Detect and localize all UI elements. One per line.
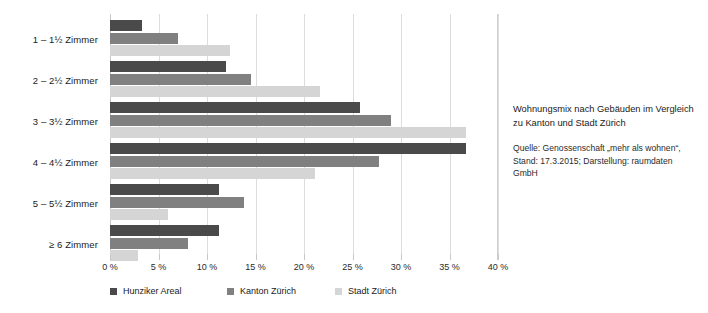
plot-area [110,14,498,260]
category-label: ≥ 6 Zimmer [0,225,98,263]
bar [110,74,251,85]
x-axis-ticks: 0 %5 %10 %15 %20 %25 %30 %35 %40 % [110,262,498,276]
category-label: 4 – 4½ Zimmer [0,143,98,181]
category-label: 5 – 5½ Zimmer [0,184,98,222]
x-tick-label: 5 % [151,262,167,272]
chart-title: Wohnungsmix nach Gebäuden im Vergleich z… [513,103,695,130]
tick-mark [256,254,257,260]
x-tick-label: 0 % [102,262,118,272]
x-tick-label: 15 % [245,262,266,272]
bar [110,86,320,97]
bar [110,184,219,195]
bar [110,45,230,56]
legend-swatch [227,288,234,295]
gridline-40 [498,14,499,260]
bar [110,197,244,208]
x-tick-label: 25 % [342,262,363,272]
legend-label: Kanton Zürich [240,286,296,296]
chart-source: Quelle: Genossenschaft „mehr als wohnen“… [513,142,695,180]
category-label-text: 2 – 2½ Zimmer [33,75,98,86]
category-label-text: 1 – 1½ Zimmer [33,34,98,45]
category-label-text: 5 – 5½ Zimmer [33,198,98,209]
bar [110,115,391,126]
category-label-text: ≥ 6 Zimmer [49,239,98,250]
chart-figure: 1 – 1½ Zimmer2 – 2½ Zimmer3 – 3½ Zimmer4… [0,0,708,313]
bar [110,143,466,154]
category-label-text: 4 – 4½ Zimmer [33,157,98,168]
legend-swatch [335,288,342,295]
tick-mark [498,254,499,260]
legend-item: Hunziker Areal [110,286,182,296]
bar [110,127,466,138]
tick-mark [110,254,111,260]
legend-item: Stadt Zürich [335,286,397,296]
legend-label: Stadt Zürich [348,286,397,296]
bar-group [110,61,498,99]
bar [110,102,360,113]
category-axis: 1 – 1½ Zimmer2 – 2½ Zimmer3 – 3½ Zimmer4… [0,14,98,260]
legend-item: Kanton Zürich [227,286,296,296]
sidenote-block: Wohnungsmix nach Gebäuden im Vergleich z… [513,103,695,180]
bar-group [110,20,498,58]
tick-mark [207,254,208,260]
tick-mark [450,254,451,260]
bar [110,33,178,44]
bar [110,168,315,179]
x-tick-label: 20 % [294,262,315,272]
bar [110,156,379,167]
x-tick-label: 30 % [391,262,412,272]
bar [110,238,188,249]
bar-group [110,184,498,222]
tick-mark [304,254,305,260]
tick-mark [353,254,354,260]
bar [110,250,138,261]
bar [110,209,168,220]
bar-group [110,102,498,140]
x-tick-label: 35 % [439,262,460,272]
x-tick-label: 40 % [488,262,509,272]
bar [110,20,142,31]
tick-mark [401,254,402,260]
tick-mark [159,254,160,260]
vertical-divider [497,14,498,260]
bar [110,61,226,72]
legend-swatch [110,288,117,295]
x-tick-label: 10 % [197,262,218,272]
category-label-text: 3 – 3½ Zimmer [33,116,98,127]
legend-label: Hunziker Areal [123,286,182,296]
category-label: 3 – 3½ Zimmer [0,102,98,140]
category-label: 2 – 2½ Zimmer [0,61,98,99]
category-label: 1 – 1½ Zimmer [0,20,98,58]
bar-group [110,143,498,181]
bar [110,225,219,236]
